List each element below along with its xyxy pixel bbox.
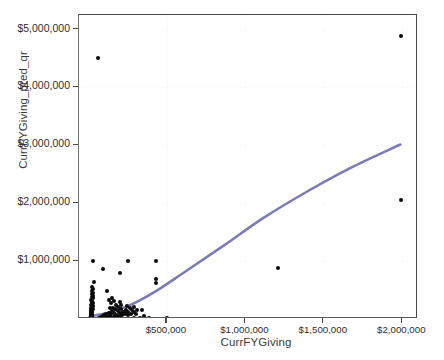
data-point xyxy=(111,317,115,318)
scatter-plot-figure: CurrFYGiving_pred_qr CurrFYGiving $5,000… xyxy=(0,0,444,360)
data-point xyxy=(105,317,109,318)
y-axis-tick xyxy=(73,260,78,261)
data-point xyxy=(132,305,136,309)
data-point xyxy=(399,34,403,38)
data-point xyxy=(399,198,403,202)
data-point xyxy=(140,308,144,312)
y-axis-tick xyxy=(73,144,78,145)
x-axis-title: CurrFYGiving xyxy=(178,336,334,348)
data-point xyxy=(134,312,138,316)
data-point xyxy=(132,316,136,318)
data-point xyxy=(91,259,95,263)
x-axis-tick-label: $2,000,000 xyxy=(377,324,426,335)
x-axis-tick-label: $500,000 xyxy=(146,324,186,335)
data-point xyxy=(147,316,151,318)
data-point xyxy=(98,317,102,318)
y-axis-tick xyxy=(73,86,78,87)
data-point xyxy=(154,277,158,281)
y-axis-tick-label: $4,000,000 xyxy=(0,79,70,91)
data-point xyxy=(89,317,93,318)
x-axis-tick xyxy=(165,318,166,323)
data-point xyxy=(126,259,130,263)
data-point xyxy=(101,267,105,271)
x-axis-tick xyxy=(401,318,402,323)
data-point xyxy=(142,314,146,318)
data-point xyxy=(118,271,122,275)
plot-panel xyxy=(78,14,417,318)
y-axis-tick xyxy=(73,28,78,29)
data-point xyxy=(154,259,158,263)
data-point xyxy=(276,266,280,270)
data-point xyxy=(123,310,127,314)
data-point xyxy=(92,280,96,284)
y-axis-tick xyxy=(73,202,78,203)
data-point xyxy=(96,56,100,60)
y-axis-title: CurrFYGiving_pred_qr xyxy=(17,0,29,225)
x-axis-tick xyxy=(322,318,323,323)
data-point xyxy=(93,317,97,318)
x-axis-tick-label: $1,000,000 xyxy=(220,324,269,335)
y-axis-tick-label: $5,000,000 xyxy=(0,22,70,34)
data-points-layer xyxy=(79,15,416,317)
data-point xyxy=(125,317,129,318)
data-point xyxy=(154,281,158,285)
y-axis-tick-label: $2,000,000 xyxy=(0,195,70,207)
data-point xyxy=(105,289,109,293)
x-axis-tick xyxy=(244,318,245,323)
y-axis-tick-label: $1,000,000 xyxy=(0,253,70,265)
x-axis-tick-label: $1,500,000 xyxy=(299,324,348,335)
y-axis-tick-label: $3,000,000 xyxy=(0,137,70,149)
data-point xyxy=(109,301,113,305)
